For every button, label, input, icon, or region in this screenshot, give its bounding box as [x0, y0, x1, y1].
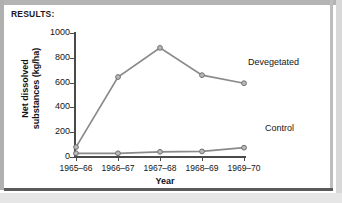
results-figure: RESULTS: 02004006008001000 1965–661966–6… — [0, 0, 342, 203]
series-label-devegetated: Devegetated — [248, 57, 299, 67]
data-point-marker — [116, 151, 121, 156]
data-point-marker — [242, 81, 247, 86]
data-point-marker — [116, 75, 121, 80]
series-line-devegetated — [76, 48, 244, 147]
data-point-marker — [74, 151, 79, 156]
series-plot-area — [0, 0, 342, 203]
data-point-marker — [74, 145, 79, 150]
data-point-marker — [200, 149, 205, 154]
series-label-control: Control — [265, 123, 294, 133]
data-point-marker — [200, 73, 205, 78]
data-point-marker — [242, 145, 247, 150]
data-point-marker — [158, 149, 163, 154]
data-point-marker — [158, 45, 163, 50]
